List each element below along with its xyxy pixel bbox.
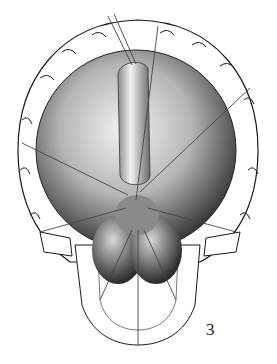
illustration [0, 0, 277, 364]
figure-number: 3 [206, 320, 215, 340]
central-structure [118, 62, 150, 184]
